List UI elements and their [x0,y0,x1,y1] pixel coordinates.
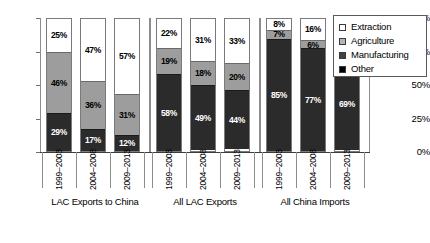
x-axis-tick-label: 2004–2008 [89,154,123,190]
legend-swatch-extraction-icon [339,24,346,31]
legend-swatch-manufacturing-icon [339,52,346,59]
bar-segment-label: 20% [229,73,245,82]
bar-segment-extraction[interactable]: 16% [301,19,325,40]
legend-item-extraction[interactable]: Extraction [339,20,426,34]
bar-segment-label: 12% [119,139,135,148]
x-axis-tick-label: 1999–2003 [165,154,199,190]
stacked-bar[interactable]: 47%36%17% [80,18,106,152]
stacked-bar[interactable]: 25%46%29% [46,18,72,152]
legend-swatch-agriculture-icon [339,38,346,45]
bar-group-title: All China Imports [260,196,370,208]
x-axis-tick-label: 2004–2008 [199,154,233,190]
bar-segment-label: 31% [195,36,211,45]
x-axis-tick-label: 2009–2013 [343,154,377,190]
legend-item-other[interactable]: Other [339,62,426,76]
plot-area: 25%46%29%47%36%17%57%31%12%22%19%58%31%1… [40,18,370,152]
y-axis-tick-label: 0% [396,147,430,157]
bar-segment-label: 49% [195,114,211,123]
legend-label: Manufacturing [351,50,409,60]
x-axis-separator [364,152,365,188]
stacked-bar[interactable]: 57%31%12% [114,18,140,152]
x-axis-tick-label: 1999–2003 [275,154,309,190]
bar-segment-label: 85% [271,91,287,100]
bar-segment-label: 8% [273,20,285,29]
bar-segment-extraction[interactable]: 33% [225,19,249,63]
bar-segment-label: 58% [161,109,177,118]
bar-segment-label: 19% [161,57,177,66]
bar-segment-agriculture[interactable]: 18% [191,61,215,85]
bar-segment-agriculture[interactable]: 20% [225,63,249,90]
bar-segment-label: 22% [161,29,177,38]
bar-segment-label: 77% [305,96,321,105]
bar-segment-label: 7% [273,30,285,39]
bar-segment-extraction[interactable]: 47% [81,19,105,81]
bar-segment-label: 46% [51,79,67,88]
bar-group-title: LAC Exports to China [40,196,150,208]
bar-segment-label: 36% [85,101,101,110]
stacked-bar-chart: 0%25%50%75%100% 25%46%29%47%36%17%57%31%… [0,0,430,243]
bar-segment-extraction[interactable]: 25% [47,19,71,52]
bar-segment-manufacturing[interactable]: 49% [191,85,215,151]
y-axis-tick-label: 25% [396,114,430,124]
bar-segment-manufacturing[interactable]: 17% [81,129,105,151]
bar-group: 22%19%58%31%18%49%33%20%44% [150,18,260,152]
bar-segment-label: 29% [51,128,67,137]
x-axis-tick-label: 1999–2003 [55,154,89,190]
bar-segment-label: 17% [85,136,101,145]
bar-segment-agriculture[interactable]: 31% [115,94,139,135]
bar-segment-label: 69% [339,100,355,109]
legend-label: Other [351,64,374,74]
bar-segment-label: 33% [229,37,245,46]
bar-segment-manufacturing[interactable]: 44% [225,90,249,149]
bar-segment-label: 57% [119,52,135,61]
bar-segment-extraction[interactable]: 8% [267,19,291,30]
x-axis-separator [330,152,331,188]
legend-swatch-other-icon [339,66,346,73]
bar-segment-label: 44% [229,116,245,125]
x-axis-separator [144,152,145,188]
x-axis-tick-label: 2004–2008 [309,154,343,190]
stacked-bar[interactable]: 8%7%85% [266,18,292,152]
x-axis-separator [186,152,187,188]
x-axis-separator [254,152,255,188]
legend-label: Agriculture [351,36,394,46]
x-axis-separator [42,152,43,188]
bar-segment-manufacturing[interactable]: 85% [267,39,291,151]
legend-item-agriculture[interactable]: Agriculture [339,34,426,48]
x-axis-separator [296,152,297,188]
bar-segment-agriculture[interactable]: 6% [301,40,325,48]
bar-segment-agriculture[interactable]: 7% [267,30,291,39]
bar-segment-manufacturing[interactable]: 29% [47,113,71,151]
stacked-bar[interactable]: 31%18%49% [190,18,216,152]
bar-segment-manufacturing[interactable]: 58% [157,74,181,151]
bar-segment-label: 25% [51,31,67,40]
x-axis-separator [220,152,221,188]
bar-segment-agriculture[interactable]: 36% [81,81,105,129]
legend-label: Extraction [351,22,391,32]
bar-group: 25%46%29%47%36%17%57%31%12% [40,18,150,152]
bar-segment-label: 31% [119,111,135,120]
bar-segment-label: 18% [195,69,211,78]
y-axis-tick-label: 50% [396,80,430,90]
x-axis-separator [152,152,153,188]
bar-segment-agriculture[interactable]: 46% [47,52,71,113]
bar-segment-manufacturing[interactable]: 77% [301,48,325,151]
stacked-bar[interactable]: 22%19%58% [156,18,182,152]
bar-segment-agriculture[interactable]: 19% [157,48,181,73]
bar-segment-extraction[interactable]: 57% [115,19,139,94]
bar-segment-label: 47% [85,46,101,55]
x-axis-separator [262,152,263,188]
chart-legend: ExtractionAgricultureManufacturingOther [333,15,427,77]
stacked-bar[interactable]: 16%6%77% [300,18,326,152]
x-axis-separator [110,152,111,188]
bar-segment-extraction[interactable]: 31% [191,19,215,61]
legend-item-manufacturing[interactable]: Manufacturing [339,48,426,62]
bar-segment-extraction[interactable]: 22% [157,19,181,48]
stacked-bar[interactable]: 33%20%44% [224,18,250,152]
bar-group-title: All LAC Exports [150,196,260,208]
x-axis-separator [76,152,77,188]
bar-segment-label: 16% [305,25,321,34]
